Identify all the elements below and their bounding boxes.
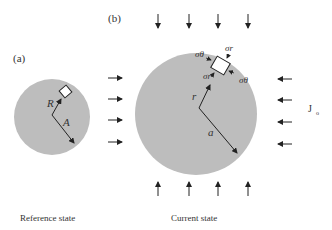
panel-a-label: (a) bbox=[13, 52, 26, 65]
J-label: J bbox=[308, 103, 312, 114]
reference-state-panel: (a) R A Reference state bbox=[13, 52, 90, 223]
sigma-theta-left-label: σθ bbox=[195, 49, 204, 59]
a-label: a bbox=[208, 126, 214, 138]
sigma-r-top-label: σr bbox=[225, 43, 233, 53]
reference-disk bbox=[14, 79, 90, 155]
J-subscript: o bbox=[316, 110, 319, 116]
R-label: R bbox=[46, 97, 54, 109]
diagram: (a) R A Reference state (b) bbox=[0, 0, 332, 230]
A-label: A bbox=[62, 116, 70, 128]
reference-state-caption: Reference state bbox=[20, 213, 75, 223]
r-label: r bbox=[192, 90, 197, 102]
current-state-caption: Current state bbox=[171, 213, 217, 223]
sigma-r-bottom-label: σr bbox=[203, 71, 211, 81]
top-load-arrows bbox=[158, 14, 248, 28]
bottom-load-arrows bbox=[158, 182, 248, 196]
sigma-r-top-arrow bbox=[227, 54, 229, 58]
sigma-theta-right-label: σθ bbox=[239, 75, 248, 85]
current-state-panel: (b) bbox=[108, 12, 292, 223]
right-load-arrows bbox=[278, 79, 292, 144]
current-disk bbox=[135, 53, 257, 175]
left-load-arrows bbox=[108, 78, 122, 142]
panel-b-label: (b) bbox=[108, 12, 121, 25]
